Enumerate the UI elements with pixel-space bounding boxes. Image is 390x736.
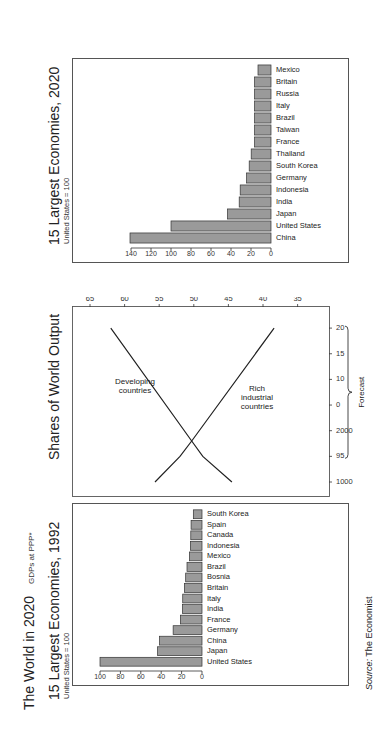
- category-label: China: [207, 636, 227, 645]
- category-label: China: [276, 233, 296, 242]
- category-label: France: [276, 137, 299, 146]
- pct-tick-label: 60: [120, 297, 128, 303]
- year-tick-label: 20: [336, 323, 344, 332]
- source-note: Source: The Economist: [364, 597, 374, 690]
- y-tick-label: 40: [227, 250, 235, 257]
- bar: [189, 552, 202, 561]
- chart-shares-title: Shares of World Output: [46, 314, 62, 460]
- category-label: United States: [207, 657, 252, 666]
- category-label: Italy: [276, 101, 290, 110]
- category-label: South Korea: [276, 161, 319, 170]
- category-label: Germany: [207, 625, 238, 634]
- y-tick-label: 60: [137, 673, 145, 680]
- bar: [228, 209, 272, 219]
- category-label: Thailand: [276, 149, 305, 158]
- category-label: Brazil: [207, 562, 226, 571]
- bar: [258, 65, 271, 75]
- y-tick-label: 100: [165, 250, 177, 257]
- y-tick-label: 80: [187, 250, 195, 257]
- series-label-line: countries: [241, 402, 273, 411]
- bar: [249, 161, 271, 171]
- y-tick-label: 20: [178, 673, 186, 680]
- bar: [191, 531, 202, 540]
- bar: [190, 541, 202, 550]
- bar: [255, 137, 271, 147]
- category-label: Indonesia: [276, 185, 309, 194]
- series-label-line: industrial: [241, 393, 273, 402]
- chart-1992-plot: 020406080100United StatesJapanChinaGerma…: [73, 504, 348, 685]
- category-label: Brazil: [276, 113, 295, 122]
- y-tick-label: 20: [247, 250, 255, 257]
- bar: [247, 173, 271, 183]
- y-tick-label: 0: [200, 673, 204, 680]
- bar: [255, 125, 271, 135]
- figure-subtitle: GDPs at PPP*: [27, 532, 36, 584]
- bar: [255, 113, 271, 123]
- y-tick-label: 140: [125, 250, 137, 257]
- y-tick-label: 40: [157, 673, 165, 680]
- category-label: Canada: [207, 530, 234, 539]
- bar: [255, 77, 271, 87]
- bar: [182, 605, 202, 614]
- pct-tick-label: 65: [86, 297, 94, 303]
- bar: [180, 615, 202, 624]
- category-label: Russia: [276, 89, 300, 98]
- bar: [173, 626, 202, 635]
- figure-canvas: The World in 2020 GDPs at PPP* 15 Larges…: [0, 0, 390, 736]
- chart-1992-panel: 020406080100United StatesJapanChinaGerma…: [72, 503, 349, 686]
- chart-1992-title: 15 Largest Economies, 1992: [46, 522, 62, 700]
- y-tick-label: 120: [145, 250, 157, 257]
- chart-1992-subtitle: United States = 100: [62, 633, 71, 699]
- bar: [193, 510, 202, 519]
- series-label-line: Rich: [249, 384, 265, 393]
- category-label: Britain: [276, 77, 297, 86]
- forecast-label: Forecast: [357, 376, 366, 408]
- y-tick-label: 80: [117, 673, 125, 680]
- series-label-line: countries: [119, 386, 151, 395]
- plot-frame: [73, 307, 330, 497]
- category-label: Bosnia: [207, 572, 231, 581]
- bar: [251, 149, 271, 159]
- category-label: Japan: [207, 646, 227, 655]
- bar: [186, 573, 202, 582]
- category-label: Indonesia: [207, 541, 240, 550]
- bar: [191, 520, 202, 529]
- chart-shares-plot: 65605550454035%10009520000101520Developi…: [72, 297, 390, 497]
- year-tick-label: 1000: [336, 477, 353, 486]
- category-label: India: [276, 197, 293, 206]
- bar: [239, 197, 271, 207]
- figure-title: The World in 2020: [21, 596, 37, 710]
- bar: [159, 636, 202, 645]
- forecast-brace: [345, 326, 352, 458]
- chart-2020-title: 15 Largest Economies, 2020: [46, 67, 62, 245]
- bar: [158, 647, 202, 656]
- pct-tick-label: 35: [293, 297, 301, 303]
- bar: [184, 584, 202, 593]
- category-label: Japan: [276, 209, 296, 218]
- bar: [183, 594, 202, 603]
- year-tick-label: 0: [336, 400, 340, 409]
- bar: [240, 185, 271, 195]
- category-label: United States: [276, 221, 321, 230]
- year-tick-label: 2000: [336, 426, 353, 435]
- label-developing: Developingcountries: [115, 377, 155, 395]
- category-label: India: [207, 604, 224, 613]
- bar: [255, 101, 271, 111]
- pct-tick-label: 55: [155, 297, 163, 303]
- source-label: Source:: [364, 659, 374, 690]
- year-tick-label: 15: [336, 349, 344, 358]
- source-value: The Economist: [364, 597, 374, 657]
- year-tick-label: 10: [336, 374, 344, 383]
- bar: [187, 563, 202, 572]
- chart-2020-plot: 020406080100120140ChinaUnited StatesJapa…: [73, 59, 348, 262]
- category-label: Germany: [276, 173, 307, 182]
- bar: [171, 221, 271, 231]
- pct-tick-label: 50: [190, 297, 198, 303]
- y-tick-label: 0: [269, 250, 273, 257]
- category-label: Spain: [207, 520, 226, 529]
- bar: [255, 89, 271, 99]
- chart-2020-subtitle: United States = 100: [62, 178, 71, 244]
- chart-2020-panel: 020406080100120140ChinaUnited StatesJapa…: [72, 58, 349, 263]
- pct-tick-label: 40: [259, 297, 267, 303]
- y-tick-label: 60: [207, 250, 215, 257]
